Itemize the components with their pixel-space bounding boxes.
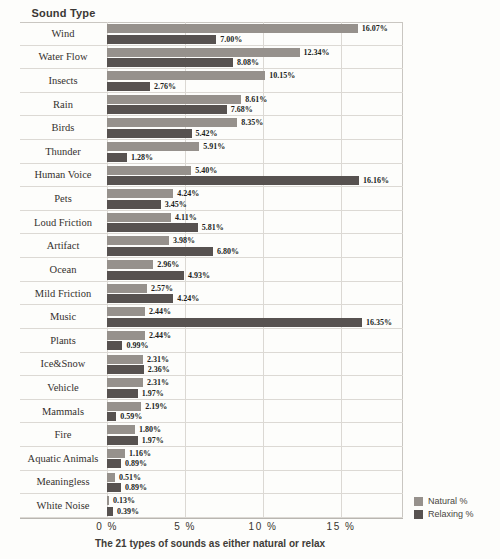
- natural-bar: [107, 449, 125, 458]
- category-row: Water Flow12.34%8.08%: [20, 46, 403, 70]
- relaxing-value-label: 8.08%: [237, 58, 259, 67]
- category-row: Plants2.44%0.99%: [20, 329, 403, 353]
- relaxing-value-label: 0.89%: [125, 459, 147, 468]
- natural-value-label: 5.40%: [195, 166, 217, 175]
- category-row: Artifact3.98%6.80%: [20, 234, 403, 258]
- relaxing-bar: [107, 507, 113, 516]
- legend-item-relaxing: Relaxing %: [414, 509, 498, 519]
- y-axis-title: Sound Type: [20, 7, 107, 19]
- natural-value-label: 0.13%: [113, 496, 135, 505]
- natural-value-label: 0.51%: [119, 473, 141, 482]
- category-label: Mammals: [20, 400, 106, 423]
- category-row: Music2.44%16.35%: [20, 305, 403, 329]
- relaxing-value-label: 3.45%: [165, 200, 187, 209]
- category-row: Mild Friction2.57%4.24%: [20, 282, 403, 306]
- relaxing-value-label: 5.81%: [202, 223, 224, 232]
- relaxing-bar: [107, 294, 173, 303]
- relaxing-bar: [107, 223, 198, 232]
- bar-chart-figure: Sound Type Wind16.07%7.00%Water Flow12.3…: [0, 0, 500, 559]
- relaxing-bar: [107, 459, 121, 468]
- legend-item-natural: Natural %: [414, 496, 498, 506]
- category-row: Meaningless0.51%0.89%: [20, 471, 403, 495]
- relaxing-bar: [107, 200, 161, 209]
- natural-bar: [107, 260, 153, 269]
- category-row: Human Voice5.40%16.16%: [20, 164, 403, 188]
- category-label: Meaningless: [20, 471, 106, 494]
- relaxing-value-label: 0.89%: [125, 483, 147, 492]
- category-row: Thunder5.91%1.28%: [20, 140, 403, 164]
- natural-value-label: 16.07%: [362, 24, 388, 33]
- category-label: Birds: [20, 116, 106, 139]
- relaxing-bar: [107, 365, 144, 374]
- category-row: Fire1.80%1.97%: [20, 423, 403, 447]
- category-label: Loud Friction: [20, 211, 106, 234]
- natural-bar: [107, 307, 145, 316]
- relaxing-bar: [107, 105, 227, 114]
- relaxing-bar: [107, 341, 122, 350]
- relaxing-bar: [107, 483, 121, 492]
- natural-bar: [107, 473, 115, 482]
- relaxing-value-label: 0.39%: [117, 507, 139, 516]
- category-label: Vehicle: [20, 376, 106, 399]
- natural-bar: [107, 48, 300, 57]
- relaxing-bar: [107, 129, 192, 138]
- relaxing-bar: [107, 412, 116, 421]
- natural-value-label: 3.98%: [173, 236, 195, 245]
- natural-value-label: 2.44%: [149, 307, 171, 316]
- legend-swatch-natural: [414, 497, 423, 506]
- x-tick-label: 0 %: [85, 521, 129, 532]
- natural-bar: [107, 355, 143, 364]
- relaxing-value-label: 4.93%: [188, 271, 210, 280]
- natural-bar: [107, 402, 141, 411]
- relaxing-bar: [107, 318, 362, 327]
- relaxing-bar: [107, 389, 138, 398]
- category-label: Fire: [20, 423, 106, 446]
- natural-bar: [107, 95, 241, 104]
- category-label: Pets: [20, 187, 106, 210]
- natural-bar: [107, 142, 199, 151]
- natural-value-label: 1.80%: [139, 425, 161, 434]
- category-label: Human Voice: [20, 164, 106, 187]
- relaxing-bar: [107, 82, 150, 91]
- relaxing-value-label: 5.42%: [196, 129, 218, 138]
- category-row: Aquatic Animals1.16%0.89%: [20, 447, 403, 471]
- relaxing-bar: [107, 153, 127, 162]
- natural-bar: [107, 166, 191, 175]
- legend: Natural % Relaxing %: [414, 496, 498, 522]
- category-label: Artifact: [20, 234, 106, 257]
- natural-bar: [107, 118, 237, 127]
- natural-value-label: 10.15%: [269, 71, 295, 80]
- relaxing-value-label: 4.24%: [177, 294, 199, 303]
- category-rows: Wind16.07%7.00%Water Flow12.34%8.08%Inse…: [20, 22, 403, 518]
- relaxing-value-label: 1.28%: [131, 153, 153, 162]
- natural-value-label: 2.96%: [157, 260, 179, 269]
- x-tick-label: 10 %: [241, 521, 285, 532]
- natural-bar: [107, 213, 171, 222]
- natural-value-label: 2.31%: [147, 355, 169, 364]
- natural-bar: [107, 425, 135, 434]
- relaxing-value-label: 7.68%: [231, 105, 253, 114]
- category-label: Wind: [20, 22, 106, 45]
- category-row: Pets4.24%3.45%: [20, 187, 403, 211]
- category-label: Ice&Snow: [20, 353, 106, 376]
- relaxing-value-label: 7.00%: [220, 35, 242, 44]
- natural-value-label: 2.44%: [149, 331, 171, 340]
- relaxing-value-label: 2.76%: [154, 82, 176, 91]
- relaxing-bar: [107, 176, 359, 185]
- category-row: Vehicle2.31%1.97%: [20, 376, 403, 400]
- x-tick-label: 15 %: [319, 521, 363, 532]
- natural-bar: [107, 189, 173, 198]
- natural-value-label: 4.24%: [177, 189, 199, 198]
- natural-value-label: 1.16%: [129, 449, 151, 458]
- natural-value-label: 2.57%: [151, 284, 173, 293]
- category-row: Mammals2.19%0.59%: [20, 400, 403, 424]
- relaxing-value-label: 1.97%: [142, 389, 164, 398]
- natural-bar: [107, 24, 358, 33]
- chart-caption: The 21 types of sounds as either natural…: [60, 538, 360, 549]
- relaxing-bar: [107, 436, 138, 445]
- relaxing-bar: [107, 35, 216, 44]
- natural-bar: [107, 284, 147, 293]
- natural-value-label: 2.31%: [147, 378, 169, 387]
- category-row: Loud Friction4.11%5.81%: [20, 211, 403, 235]
- category-row: Wind16.07%7.00%: [20, 22, 403, 46]
